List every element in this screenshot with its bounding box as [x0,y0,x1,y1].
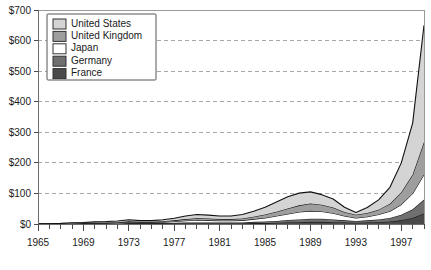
y-axis-label: $700 [9,5,32,16]
top-mask [38,0,426,10]
legend-label-japan: Japan [71,42,98,53]
legend: United StatesUnited KingdomJapanGermanyF… [47,14,156,80]
legend-label-united-kingdom: United Kingdom [71,30,142,41]
x-axis-label: 1965 [27,237,50,248]
legend-swatch-united-states [53,19,66,29]
x-axis-label: 1993 [345,237,368,248]
x-axis-label: 1981 [209,237,232,248]
legend-swatch-japan [53,44,66,54]
legend-swatch-germany [53,56,66,66]
y-axis-label: $100 [9,188,32,199]
x-axis-label: 1977 [163,237,186,248]
y-axis-label: $200 [9,157,32,168]
chart-canvas: $0$100$200$300$400$500$600$7001965196919… [0,0,431,270]
legend-label-france: France [71,67,103,78]
legend-label-germany: Germany [71,55,112,66]
x-axis-label: 1969 [72,237,95,248]
y-axis-label: $0 [20,219,32,230]
x-axis-label: 1997 [390,237,413,248]
x-axis-label: 1973 [118,237,141,248]
x-axis-label: 1989 [299,237,322,248]
legend-label-united-states: United States [71,18,131,29]
y-axis-label: $500 [9,66,32,77]
y-axis-label: $400 [9,96,32,107]
legend-swatch-france [53,69,66,79]
x-axis-label: 1985 [254,237,277,248]
y-axis-label: $600 [9,35,32,46]
legend-swatch-united-kingdom [53,31,66,41]
y-axis-label: $300 [9,127,32,138]
stacked-area-chart: $0$100$200$300$400$500$600$7001965196919… [0,0,431,270]
